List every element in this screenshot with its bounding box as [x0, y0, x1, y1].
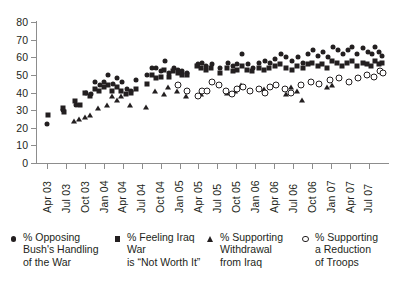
triangle-filled-icon [207, 235, 214, 242]
legend-item[interactable]: % SupportingWithdrawalfrom Iraq [207, 231, 302, 268]
data-point [371, 73, 378, 80]
x-axis-label-text: Oct 05 [231, 171, 242, 213]
x-axis-label: Apr 04 [117, 171, 129, 213]
x-axis-label: Jul 06 [287, 171, 299, 213]
x-axis-label: Jul 04 [136, 171, 148, 213]
x-axis-tick [123, 164, 124, 169]
y-axis-label: 80 [0, 17, 28, 28]
series-group [37, 22, 389, 163]
data-point [379, 70, 386, 77]
data-point [183, 87, 190, 94]
x-axis-tick [293, 164, 294, 169]
x-axis-tick [255, 164, 256, 169]
x-axis-label-text: Apr 06 [269, 171, 280, 213]
x-axis-label: Apr 03 [41, 171, 53, 213]
x-axis-label-text: Jul 04 [136, 171, 147, 213]
x-axis-label-text: Jul 06 [288, 171, 299, 213]
x-axis-label: Jan 07 [325, 171, 337, 213]
x-axis-tick [331, 164, 332, 169]
x-axis-line [36, 163, 389, 164]
y-axis-label: 60 [0, 52, 28, 63]
chart-page: 01020304050607080 Apr 03Jul 03Oct 03Jan … [0, 0, 400, 286]
x-axis-tick [142, 164, 143, 169]
x-axis-tick [66, 164, 67, 169]
circle-filled-icon [10, 235, 17, 242]
data-point [209, 78, 216, 85]
x-axis-label-text: Apr 03 [42, 171, 53, 213]
data-point [308, 78, 315, 85]
x-axis-label-text: Oct 06 [307, 171, 318, 213]
y-axis-label: 40 [0, 87, 28, 98]
data-point [246, 87, 253, 94]
x-axis-label: Apr 06 [268, 171, 280, 213]
x-axis-tick [198, 164, 199, 169]
data-point [363, 71, 370, 78]
x-axis-label-text: Oct 03 [80, 171, 91, 213]
x-axis-label: Jan 06 [249, 171, 261, 213]
x-axis-label: Jan 04 [98, 171, 110, 213]
x-axis-label-text: Oct 04 [155, 171, 166, 213]
square-filled-icon [114, 235, 121, 242]
x-axis-tick [312, 164, 313, 169]
legend-item[interactable]: % Supportinga Reductionof Troops [302, 231, 395, 268]
legend-item-label: % OpposingBush's Handlingof the War [23, 231, 99, 268]
x-axis-label: Oct 03 [79, 171, 91, 213]
data-point [336, 75, 343, 82]
chart-legend: % OpposingBush's Handlingof the War% Fee… [10, 231, 395, 268]
data-point [298, 82, 305, 89]
x-axis-tick [47, 164, 48, 169]
x-axis-tick [236, 164, 237, 169]
x-axis-label-text: Jan 06 [250, 171, 261, 213]
x-axis-tick [350, 164, 351, 169]
x-axis-label: Jul 03 [60, 171, 72, 213]
circle-open-icon [302, 235, 309, 242]
x-axis-label: Oct 06 [306, 171, 318, 213]
data-point [287, 89, 294, 96]
data-point [203, 87, 210, 94]
x-axis-label: Oct 04 [155, 171, 167, 213]
legend-item-label: % Supportinga Reductionof Troops [315, 231, 378, 268]
x-axis-label: Jan 05 [174, 171, 186, 213]
x-axis-label-text: Apr 04 [117, 171, 128, 213]
x-axis-label: Jul 07 [363, 171, 375, 213]
x-axis-label: Apr 05 [192, 171, 204, 213]
y-axis-label: 20 [0, 123, 28, 134]
data-point [175, 82, 182, 89]
x-axis-tick [161, 164, 162, 169]
y-axis-label: 50 [0, 70, 28, 81]
x-axis-tick [104, 164, 105, 169]
y-axis-tick [31, 163, 37, 164]
plot-area [37, 22, 389, 163]
x-axis-label-text: Apr 05 [193, 171, 204, 213]
legend-item[interactable]: % OpposingBush's Handlingof the War [10, 231, 114, 268]
x-axis-label-text: Jan 04 [99, 171, 110, 213]
y-axis-label: 0 [0, 158, 28, 169]
x-axis-tick [85, 164, 86, 169]
x-axis-label: Apr 07 [344, 171, 356, 213]
x-axis-label-text: Jul 07 [363, 171, 374, 213]
x-axis-label-text: Jul 03 [61, 171, 72, 213]
x-axis-tick [180, 164, 181, 169]
x-axis-tick [217, 164, 218, 169]
data-point [216, 82, 223, 89]
data-point [326, 77, 333, 84]
y-axis-label: 10 [0, 140, 28, 151]
x-axis-tick [369, 164, 370, 169]
x-axis-tick [274, 164, 275, 169]
data-point [315, 80, 322, 87]
data-point [273, 82, 280, 89]
x-axis-label: Jul 05 [211, 171, 223, 213]
data-point [345, 78, 352, 85]
legend-item[interactable]: % Feeling Iraq Waris “Not Worth It” [114, 231, 207, 268]
x-axis-label: Oct 05 [230, 171, 242, 213]
x-axis-label-text: Apr 07 [345, 171, 356, 213]
legend-item-label: % Feeling Iraq Waris “Not Worth It” [127, 231, 207, 268]
y-axis-label: 30 [0, 105, 28, 116]
data-point [355, 75, 362, 82]
y-axis-label: 70 [0, 34, 28, 45]
x-axis-label-text: Jul 05 [212, 171, 223, 213]
x-axis-label-text: Jan 05 [174, 171, 185, 213]
x-axis-label-text: Jan 07 [326, 171, 337, 213]
legend-item-label: % SupportingWithdrawalfrom Iraq [220, 231, 283, 268]
